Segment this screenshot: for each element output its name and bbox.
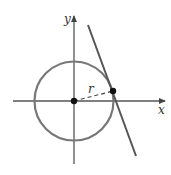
radius-label: r (88, 82, 95, 96)
y-axis-label: y (63, 12, 71, 26)
tangent-point (110, 88, 116, 94)
diagram-canvas: y x r (0, 0, 171, 175)
center-point (71, 98, 77, 104)
x-axis-label: x (158, 103, 165, 117)
